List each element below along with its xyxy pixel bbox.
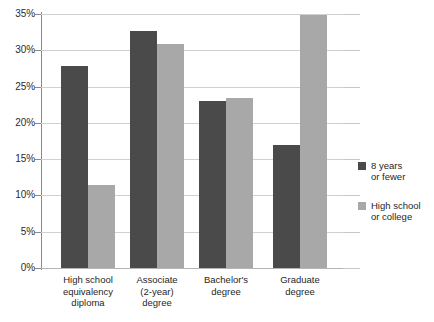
bar [300,15,327,268]
y-axis-tick-label: 10% [2,190,35,200]
bar [61,66,88,268]
gridline [41,268,343,269]
plot-area [41,14,343,268]
axis-tick-stub [343,50,360,51]
y-axis-tick-label: 15% [2,154,35,164]
bar [157,44,184,268]
axis-tick-stub [343,268,360,269]
legend-label-line: 8 years [371,160,434,171]
legend-item[interactable]: High schoolor college [358,200,434,222]
bar-group [199,14,253,268]
bar-chart: 0%5%10%15%20%25%30%35% 8 yearsor fewerHi… [0,0,434,322]
y-axis-tick-mark [35,232,41,233]
y-axis-tick-mark [35,87,41,88]
x-axis-category-label-line: Graduate [245,274,355,286]
legend-label-line: or fewer [371,171,434,182]
y-axis-tick-label: 25% [2,82,35,92]
bar [199,101,226,268]
axis-tick-stub [343,123,360,124]
y-axis-tick-mark [35,159,41,160]
legend-label-line: High school [371,200,434,211]
y-axis-tick-label: 0% [2,263,35,273]
bar-group [130,14,184,268]
x-axis-category-label: Graduatedegree [245,274,355,297]
x-axis-category-label-line: degree [245,286,355,298]
legend-label: High schoolor college [371,200,434,222]
axis-tick-stub [343,14,360,15]
bar [130,31,157,268]
legend-item[interactable]: 8 yearsor fewer [358,160,434,182]
y-axis-tick-label: 30% [2,45,35,55]
bar-group [61,14,115,268]
bar [273,145,300,268]
legend-swatch-icon [358,162,366,170]
y-axis-tick-mark [35,268,41,269]
legend-swatch-icon [358,202,366,210]
y-axis-tick-mark [35,50,41,51]
axis-tick-stub [343,195,360,196]
axis-tick-stub [343,87,360,88]
y-axis-tick-mark [35,123,41,124]
x-axis-category-label-line: degree [102,297,212,309]
axis-tick-stub [343,232,360,233]
bar [226,98,253,268]
y-axis-tick-mark [35,14,41,15]
y-axis-tick-label: 5% [2,227,35,237]
y-axis-tick-label: 20% [2,118,35,128]
bar [88,185,115,268]
legend-label: 8 yearsor fewer [371,160,434,182]
y-axis-tick-mark [35,195,41,196]
y-axis-tick-label: 35% [2,9,35,19]
chart-legend: 8 yearsor fewerHigh schoolor college [358,160,434,240]
legend-label-line: or college [371,211,434,222]
axis-tick-stub [343,159,360,160]
bar-group [273,14,327,268]
